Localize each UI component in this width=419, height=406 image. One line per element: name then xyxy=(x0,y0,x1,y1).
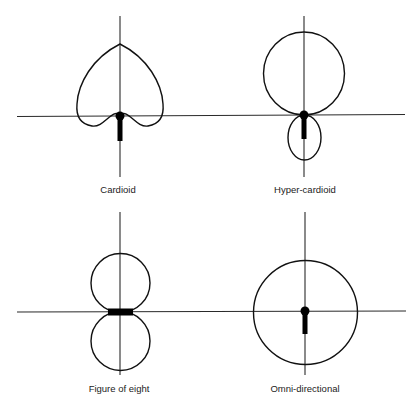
bottom-horizontal-axis xyxy=(17,311,406,312)
figure-of-eight-mic-body xyxy=(108,309,133,316)
figure-of-eight-label: Figure of eight xyxy=(89,383,150,394)
cardioid-label: Cardioid xyxy=(100,184,135,195)
top-horizontal-axis xyxy=(17,115,405,117)
omni-directional-mic-body xyxy=(303,311,308,334)
polar-pattern-diagram: Cardioid Hyper-cardioid Figure of eight … xyxy=(0,0,419,406)
panel-hyper-cardioid: Hyper-cardioid xyxy=(264,16,345,195)
cardioid-mic-body xyxy=(118,116,123,141)
panel-omni-directional: Omni-directional xyxy=(254,212,358,394)
hyper-cardioid-label: Hyper-cardioid xyxy=(274,184,336,195)
omni-directional-label: Omni-directional xyxy=(270,383,339,394)
panel-cardioid: Cardioid xyxy=(77,16,163,195)
panel-figure-of-eight: Figure of eight xyxy=(89,212,150,394)
hyper-cardioid-mic-body xyxy=(302,115,307,139)
